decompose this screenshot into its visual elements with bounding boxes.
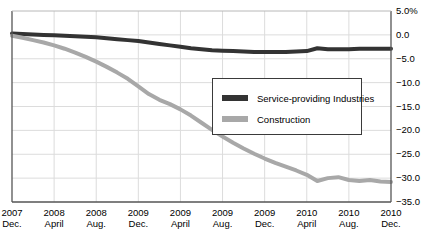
y-axis-tick-label: −35.0: [396, 197, 420, 207]
legend-swatch-construction: [222, 116, 248, 122]
y-axis-tick-label: −15.0: [396, 102, 420, 112]
y-axis-tick-label: 5.0%: [396, 6, 418, 16]
y-axis-tick-label: −30.0: [396, 173, 420, 183]
x-axis-tick-label: 2009Dec.: [242, 207, 288, 229]
y-axis-tick-label: −10.0: [396, 78, 420, 88]
legend-item-service-providing-industries: Service-providing Industries: [222, 91, 374, 105]
x-axis-tick-label: 2010Aug.: [326, 207, 372, 229]
x-axis-tick-label: 2009April: [157, 207, 203, 229]
x-axis-tick-label: 2007Dec.: [0, 207, 35, 229]
legend-swatch-service-providing-industries: [222, 95, 248, 101]
chart-legend: Service-providing Industries Constructio…: [212, 78, 362, 135]
x-axis-tick-label: 2009Aug.: [200, 207, 246, 229]
y-axis-tick-label: −25.0: [396, 149, 420, 159]
y-axis-tick-label: −20.0: [396, 125, 420, 135]
x-axis-tick-label: 2008April: [31, 207, 77, 229]
y-axis-tick-label: −5.0: [396, 54, 415, 64]
x-axis-tick-label: 2009Dec.: [115, 207, 161, 229]
x-axis-tick-label: 2008Aug.: [73, 207, 119, 229]
legend-item-construction: Construction: [222, 112, 310, 126]
chart-container: 5.0%0.0−5.0−10.0−15.0−20.0−25.0−30.0−35.…: [0, 0, 429, 241]
x-axis-tick-label: 2010Dec.: [368, 207, 414, 229]
y-axis-tick-label: 0.0: [396, 30, 409, 40]
legend-label-service-providing-industries: Service-providing Industries: [257, 93, 374, 104]
x-axis-tick-label: 2010April: [284, 207, 330, 229]
legend-label-construction: Construction: [257, 114, 310, 125]
